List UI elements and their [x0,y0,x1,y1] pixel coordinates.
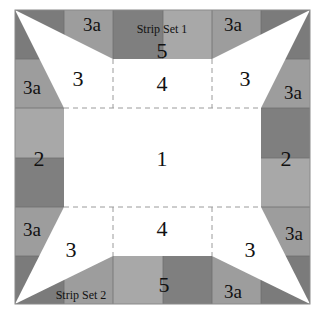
bottom-square-4 [163,256,212,304]
label-corner-br: 3 [245,237,256,262]
label-side-left: 2 [34,146,45,171]
label-3a-top-left: 3a [83,14,102,35]
label-center: 1 [157,146,168,171]
label-strip-set-1: Strip Set 1 [137,22,188,36]
label-3a-right-top: 3a [284,82,303,103]
label-3a-left-bottom: 3a [23,219,42,240]
label-bottom-mid: 4 [157,216,168,241]
label-side-right: 2 [281,146,292,171]
label-3a-top-right: 3a [224,14,243,35]
label-3a-bottom-right: 3a [224,281,243,302]
label-3a-left-top: 3a [23,77,42,98]
label-corner-bl: 3 [66,237,77,262]
label-top-strip: 5 [157,38,168,63]
quilt-block-diagram: 1 2 2 3 3 3 3 4 4 5 5 Strip Set 1 Strip … [0,0,320,312]
bottom-square-3 [113,256,163,304]
label-corner-tr: 3 [240,66,251,91]
label-top-mid: 4 [157,71,168,96]
label-bottom-strip: 5 [159,272,170,297]
label-3a-right-bottom: 3a [285,223,304,244]
label-strip-set-2: Strip Set 2 [56,288,107,302]
label-corner-tl: 3 [73,66,84,91]
